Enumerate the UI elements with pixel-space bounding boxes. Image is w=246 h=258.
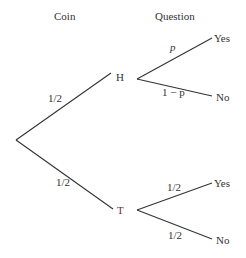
heads-no-outcome: No bbox=[216, 92, 229, 103]
heads-yes-prob: p bbox=[170, 42, 176, 53]
tails-yes-outcome: Yes bbox=[214, 178, 230, 189]
tree-lines bbox=[0, 0, 246, 258]
tails-node: T bbox=[117, 205, 124, 216]
heads-prob-label: 1/2 bbox=[48, 93, 62, 104]
heads-yes-outcome: Yes bbox=[214, 33, 230, 44]
tails-prob-label: 1/2 bbox=[56, 177, 70, 188]
tails-yes-prob: 1/2 bbox=[167, 182, 181, 193]
tails-no-prob: 1/2 bbox=[168, 230, 182, 241]
edge-root-tails bbox=[16, 140, 113, 209]
heads-no-prob: 1 − p bbox=[162, 87, 185, 98]
heads-node: H bbox=[116, 72, 124, 83]
tails-no-outcome: No bbox=[216, 235, 229, 246]
question-header: Question bbox=[155, 11, 195, 22]
edge-root-heads bbox=[16, 73, 111, 140]
coin-header: Coin bbox=[54, 11, 75, 22]
